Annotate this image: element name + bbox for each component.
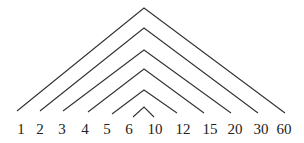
factor-label: 60 (277, 121, 292, 137)
factor-label: 10 (148, 121, 163, 137)
pair-arc-2-30 (40, 28, 258, 113)
factor-label: 12 (176, 121, 191, 137)
factor-label: 1 (17, 121, 25, 137)
factor-label: 20 (228, 121, 243, 137)
factor-label: 3 (58, 121, 66, 137)
factor-arcs: 1 2 3 4 5 6 10 12 15 20 30 60 (0, 0, 304, 143)
factor-label: 4 (81, 121, 89, 137)
factor-label: 15 (203, 121, 218, 137)
pair-arc-5-12 (112, 90, 177, 114)
factor-label: 6 (125, 121, 133, 137)
pair-arc-6-10 (133, 107, 154, 117)
factor-rainbow-diagram: 1 2 3 4 5 6 10 12 15 20 30 60 (0, 0, 304, 143)
pair-arc-3-20 (63, 50, 231, 113)
factor-label: 5 (103, 121, 111, 137)
factor-label: 30 (254, 121, 269, 137)
factor-label: 2 (36, 121, 44, 137)
